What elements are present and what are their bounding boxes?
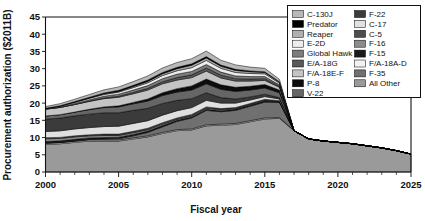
chart-canvas: 200020052010201520202025 051015202530354… (0, 0, 425, 221)
y-tick-label: 0 (35, 166, 40, 177)
legend-swatch-f-22 (355, 11, 366, 18)
y-tick-label: 5 (35, 149, 41, 160)
legend-swatch-c-5 (355, 30, 366, 37)
legend-swatch-predator (293, 20, 304, 27)
legend-swatch-all-other (355, 80, 366, 87)
legend-label-c-5: C-5 (369, 30, 382, 39)
y-tick-label: 45 (29, 11, 40, 22)
legend-label-all-other: All Other (369, 79, 400, 88)
legend-swatch-f-35 (355, 70, 366, 77)
legend-label-c-130j: C-130J (307, 10, 333, 19)
x-axis-title: Fiscal year (190, 204, 242, 215)
y-tick-label: 30 (29, 63, 40, 74)
legend-swatch-e-a-18g (293, 60, 304, 67)
x-tick-labels: 200020052010201520202025 (35, 179, 422, 190)
legend-swatch-c-130j (293, 11, 304, 18)
legend-label-e-a-18g: E/A-18G (307, 59, 338, 68)
legend-swatch-c-17 (355, 20, 366, 27)
legend-swatch-reaper (293, 30, 304, 37)
y-tick-label: 15 (29, 115, 40, 126)
x-tick-label: 2020 (327, 179, 348, 190)
legend-label-f-15: F-15 (369, 49, 386, 58)
legend-label-f-22: F-22 (369, 10, 386, 19)
legend-label-global-hawk: Global Hawk (307, 49, 353, 58)
legend-label-f-16: F-16 (369, 39, 386, 48)
legend-label-predator: Predator (307, 20, 338, 29)
legend-swatch-f-a-18a-d (355, 60, 366, 67)
legend-label-f-a-18e-f: F/A-18E-F (307, 69, 344, 78)
legend-label-c-17: C-17 (369, 20, 387, 29)
y-axis-title: Procurement authorization ($2011B) (2, 9, 13, 180)
y-tick-label: 20 (29, 98, 40, 109)
legend-label-reaper: Reaper (307, 30, 334, 39)
procurement-authorization-chart: 200020052010201520202025 051015202530354… (0, 0, 425, 221)
legend-label-f-a-18a-d: F/A-18A-D (369, 59, 407, 68)
y-tick-label: 40 (29, 29, 40, 40)
legend-label-f-35: F-35 (369, 69, 386, 78)
x-tick-label: 2015 (254, 179, 276, 190)
y-tick-labels: 051015202530354045 (29, 11, 40, 177)
chart-legend: C-130JPredatorReaperE-2DGlobal HawkE/A-1… (288, 6, 421, 98)
legend-swatch-e-2d (293, 40, 304, 47)
legend-swatch-p-8 (293, 80, 304, 87)
x-tick-label: 2000 (35, 179, 56, 190)
legend-label-p-8: P-8 (307, 79, 320, 88)
legend-swatch-v-22 (293, 90, 304, 97)
x-tick-label: 2005 (108, 179, 130, 190)
x-tick-label: 2010 (181, 179, 202, 190)
legend-label-e-2d: E-2D (307, 39, 325, 48)
y-tick-label: 10 (29, 132, 40, 143)
y-tick-label: 35 (29, 46, 40, 57)
x-tick-label: 2025 (400, 179, 422, 190)
legend-swatch-global-hawk (293, 50, 304, 57)
legend-label-v-22: V-22 (307, 89, 324, 98)
legend-swatch-f-16 (355, 40, 366, 47)
legend-swatch-f-15 (355, 50, 366, 57)
y-tick-label: 25 (29, 80, 40, 91)
legend-swatch-f-a-18e-f (293, 70, 304, 77)
